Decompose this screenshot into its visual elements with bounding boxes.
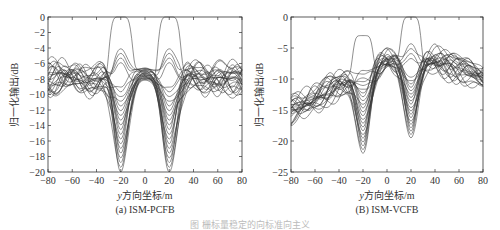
plot-b: −80−60−40−200204060800−5−10−15−20−25 归一化… [253,12,488,217]
plot-a-ticks: −80−60−40−200204060800−2−4−6−8−10−12−14−… [29,12,247,187]
x-tick-label: 80 [237,175,247,186]
x-tick-label: −60 [307,175,323,186]
x-tick-label: 60 [454,175,464,186]
y-tick-label: 0 [283,12,288,23]
plot-b-ylabel: 归一化输出/dB [253,62,265,127]
data-curve [291,59,483,153]
plot-a-ylabel: 归一化输出/dB [8,62,20,127]
y-tick-label: −20 [272,136,288,147]
curves-b [291,17,483,153]
y-tick-label: −10 [29,89,45,100]
y-tick-label: −15 [272,105,288,116]
x-tick-label: 60 [213,175,223,186]
y-tick-label: −2 [34,27,45,38]
plot-b-frame [291,17,483,172]
x-tick-label: −20 [355,175,371,186]
y-tick-label: −20 [29,167,45,178]
plot-a-frame [48,17,242,172]
curves-a [48,17,242,172]
y-tick-label: −18 [29,151,45,162]
x-tick-label: 0 [385,175,390,186]
x-tick-label: 20 [406,175,416,186]
x-tick-label: −40 [331,175,347,186]
plot-a: −80−60−40−200204060800−2−4−6−8−10−12−14−… [8,12,247,217]
y-tick-label: −4 [34,43,45,54]
x-tick-label: −20 [113,175,129,186]
x-tick-label: 0 [143,175,148,186]
y-tick-label: 0 [40,12,45,23]
x-tick-label: 20 [164,175,174,186]
y-tick-label: −6 [34,58,45,69]
y-tick-label: −5 [277,43,288,54]
plot-b-title: (B) ISM-VCFB [355,204,418,216]
y-tick-label: −25 [272,167,288,178]
x-tick-label: 40 [189,175,199,186]
plot-a-xlabel: y方向坐标/m [116,189,172,201]
figure-caption: 图 栅标量稳定的向标准向主义 [190,219,309,230]
x-tick-label: 80 [478,175,488,186]
y-tick-label: −16 [29,136,45,147]
plot-b-ticks: −80−60−40−200204060800−5−10−15−20−25 [272,12,488,187]
y-tick-label: −8 [34,74,45,85]
plot-b-xlabel: y方向坐标/m [358,189,414,201]
plot-a-title: (a) ISM-PCFB [115,204,175,216]
figure: −80−60−40−200204060800−2−4−6−8−10−12−14−… [0,0,500,230]
x-tick-label: 40 [430,175,440,186]
y-tick-label: −12 [29,105,45,116]
x-tick-label: −60 [64,175,80,186]
x-tick-label: −40 [89,175,105,186]
y-tick-label: −10 [272,74,288,85]
y-tick-label: −14 [29,120,45,131]
